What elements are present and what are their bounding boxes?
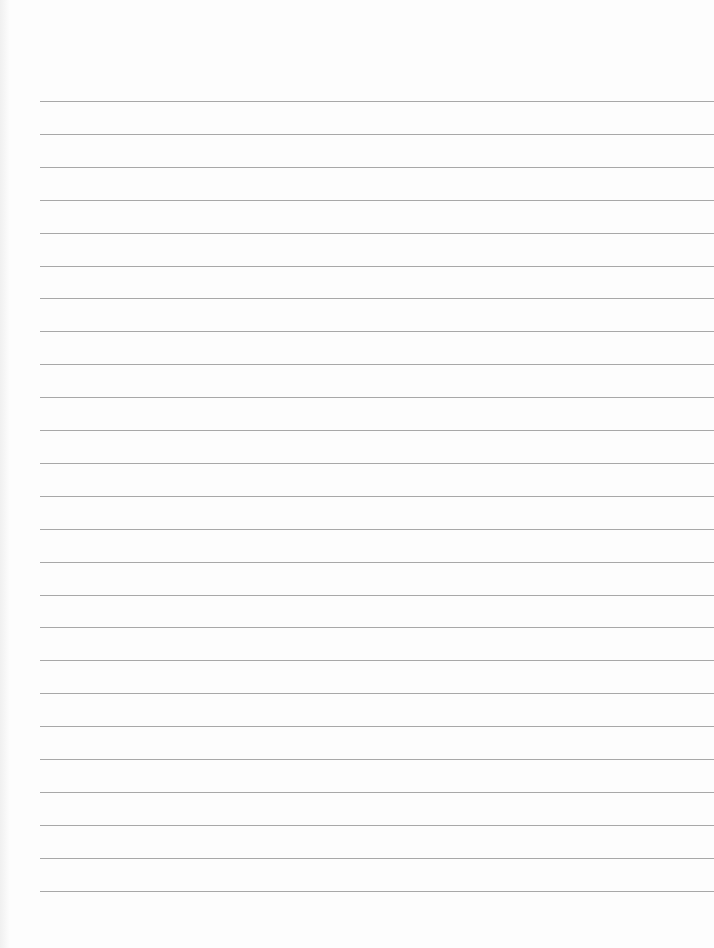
ruled-line bbox=[40, 858, 714, 859]
ruled-line bbox=[40, 759, 714, 760]
ruled-line bbox=[40, 726, 714, 727]
ruled-line bbox=[40, 693, 714, 694]
ruled-line bbox=[40, 101, 714, 102]
ruled-line bbox=[40, 331, 714, 332]
ruled-line bbox=[40, 529, 714, 530]
ruled-line bbox=[40, 266, 714, 267]
ruled-line bbox=[40, 298, 714, 299]
ruled-line bbox=[40, 496, 714, 497]
ruled-line bbox=[40, 233, 714, 234]
ruled-line bbox=[40, 134, 714, 135]
ruled-line bbox=[40, 595, 714, 596]
ruled-line bbox=[40, 364, 714, 365]
ruled-line bbox=[40, 825, 714, 826]
ruled-line bbox=[40, 562, 714, 563]
ruled-line bbox=[40, 430, 714, 431]
ruled-line bbox=[40, 627, 714, 628]
ruled-line bbox=[40, 167, 714, 168]
ruled-line bbox=[40, 792, 714, 793]
lined-paper-sheet bbox=[0, 0, 714, 948]
ruled-line bbox=[40, 660, 714, 661]
ruled-line bbox=[40, 200, 714, 201]
ruled-line bbox=[40, 891, 714, 892]
ruled-line bbox=[40, 397, 714, 398]
ruled-line bbox=[40, 463, 714, 464]
